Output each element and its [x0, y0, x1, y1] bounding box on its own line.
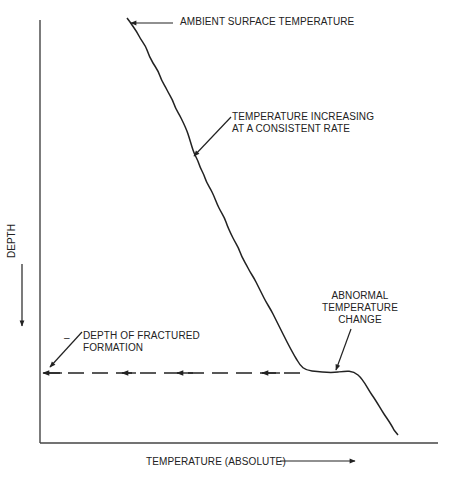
fractured-formation-label: DEPTH OF FRACTURED FORMATION	[83, 330, 200, 354]
y-axis-label: DEPTH	[6, 224, 17, 258]
fractured-line-2: FORMATION	[83, 342, 200, 354]
fractured-formation-mark: –	[64, 332, 70, 344]
ambient-surface-temperature-label: AMBIENT SURFACE TEMPERATURE	[180, 16, 354, 28]
increasing-leader-arrow	[194, 117, 231, 156]
abnormal-line-2: TEMPERATURE	[320, 302, 400, 314]
consistent-rate-line-2: AT A CONSISTENT RATE	[232, 123, 374, 135]
consistent-rate-label: TEMPERATURE INCREASING AT A CONSISTENT R…	[232, 111, 374, 135]
consistent-rate-line-1: TEMPERATURE INCREASING	[232, 111, 374, 123]
fractured-line-1: DEPTH OF FRACTURED	[83, 330, 200, 342]
abnormal-line-3: CHANGE	[320, 314, 400, 326]
diagram-canvas	[0, 0, 453, 479]
abnormal-line-1: ABNORMAL	[320, 290, 400, 302]
abnormal-change-label: ABNORMAL TEMPERATURE CHANGE	[320, 290, 400, 326]
x-axis-label: TEMPERATURE (ABSOLUTE)	[146, 456, 286, 468]
abnormal-leader-arrow	[336, 329, 351, 370]
